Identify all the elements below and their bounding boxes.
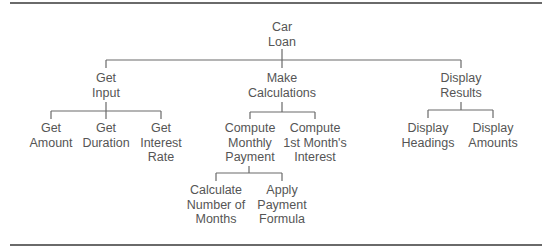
- node-calculate-number-of-months: Calculate Number of Months: [187, 183, 245, 227]
- connector-root: [106, 49, 461, 68]
- node-compute-first-month-interest: Compute 1st Month's Interest: [283, 121, 347, 165]
- node-make-calculations: Make Calculations: [248, 71, 316, 100]
- node-get-input: Get Input: [92, 71, 120, 100]
- node-display-amounts: Display Amounts: [468, 121, 517, 150]
- node-car-loan: Car Loan: [268, 20, 296, 49]
- connector-make-calculations: [250, 102, 315, 119]
- node-get-interest-rate: Get Interest Rate: [140, 121, 182, 165]
- node-get-duration: Get Duration: [82, 121, 129, 150]
- node-display-results: Display Results: [440, 71, 482, 100]
- node-compute-monthly-payment: Compute Monthly Payment: [225, 121, 276, 165]
- node-get-amount: Get Amount: [29, 121, 72, 150]
- node-display-headings: Display Headings: [402, 121, 455, 150]
- connector-get-input: [51, 102, 161, 119]
- connector-compute-monthly-payment: [216, 166, 282, 181]
- node-apply-payment-formula: Apply Payment Formula: [257, 183, 306, 227]
- connector-display-results: [428, 102, 493, 118]
